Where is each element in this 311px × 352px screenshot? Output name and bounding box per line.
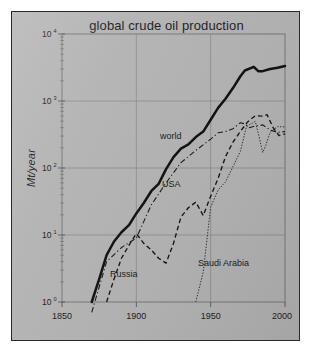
chart-plate: global crude oil production Mt/year xyxy=(11,11,300,341)
y-tick-exponent-2: 2 xyxy=(54,162,57,168)
y-tick-label-2: 10 xyxy=(42,163,52,173)
curve-saudi-arabia xyxy=(196,121,285,302)
series-label-usa: USA xyxy=(162,179,181,189)
y-tick-exponent-3: 3 xyxy=(54,95,57,101)
x-tick-label-1850: 1850 xyxy=(52,311,72,321)
figure-container: global crude oil production Mt/year xyxy=(8,8,303,344)
x-axis-tick-labels: 1850 1900 1950 2000 xyxy=(52,311,292,321)
y-tick-label-0: 10 xyxy=(42,297,52,307)
y-tick-label-4: 10 xyxy=(42,29,52,39)
y-tick-exponent-0: 0 xyxy=(54,296,57,302)
line-chart: 10 0 10 1 10 2 10 3 10 4 1850 xyxy=(12,12,300,341)
series-label-russia: Russia xyxy=(110,269,138,279)
x-tick-label-1950: 1950 xyxy=(201,311,221,321)
y-tick-exponent-4: 4 xyxy=(54,28,57,34)
x-tick-label-1900: 1900 xyxy=(126,311,146,321)
series-label-saudi-arabia: Saudi Arabia xyxy=(198,258,249,268)
series-label-world: world xyxy=(159,131,182,141)
curve-usa xyxy=(92,123,285,313)
x-tick-label-2000: 2000 xyxy=(272,311,292,321)
gridlines-y xyxy=(62,101,285,235)
y-axis-tick-labels: 10 0 10 1 10 2 10 3 10 4 xyxy=(42,28,57,308)
series-annotations: world USA Russia Saudi Arabia xyxy=(110,131,249,279)
x-axis-ticks xyxy=(62,302,285,307)
y-tick-exponent-1: 1 xyxy=(54,229,57,235)
y-tick-label-3: 10 xyxy=(42,96,52,106)
y-tick-label-1: 10 xyxy=(42,230,52,240)
